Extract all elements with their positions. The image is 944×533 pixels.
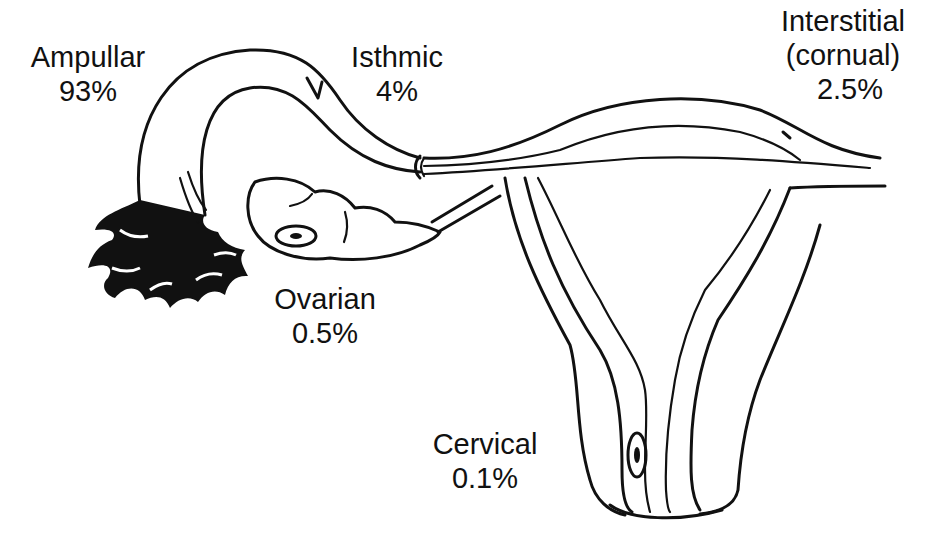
cervical-percent: 0.1% [405,461,565,495]
label-isthmic: Isthmic 4% [332,40,462,108]
label-cervical: Cervical 0.1% [405,427,565,495]
cervical-name: Cervical [405,427,565,461]
isthmic-name: Isthmic [332,40,462,74]
interstitial-subname: (cornual) [748,38,938,72]
interstitial-name: Interstitial [748,4,938,38]
ampullar-name: Ampullar [8,40,168,74]
ampullar-percent: 93% [8,74,168,108]
label-ovarian: Ovarian 0.5% [250,282,400,350]
label-ampullar: Ampullar 93% [8,40,168,108]
ovary [248,178,500,259]
ectopic-pregnancy-diagram: Ampullar 93% Isthmic 4% Interstitial (co… [0,0,944,533]
interstitial-percent: 2.5% [748,72,938,106]
uterus-upper [424,99,880,174]
isthmic-percent: 4% [332,74,462,108]
ovarian-name: Ovarian [250,282,400,316]
fimbriae [88,172,248,308]
ovarian-percent: 0.5% [250,316,400,350]
label-interstitial: Interstitial (cornual) 2.5% [748,4,938,106]
